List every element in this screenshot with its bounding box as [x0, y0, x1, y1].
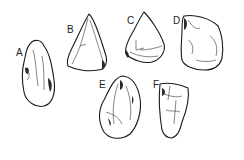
label-b: B [67, 24, 74, 35]
stone-tools-figure: A B C D E F [0, 0, 244, 160]
artifact-f: F [153, 79, 189, 138]
artifact-b: B [67, 14, 107, 71]
label-a: A [16, 47, 23, 58]
artifact-a: A [16, 40, 55, 106]
label-d: D [173, 15, 180, 26]
label-e: E [99, 79, 106, 90]
label-c: C [127, 15, 134, 26]
artifact-d: D [173, 15, 223, 70]
artifact-e: E [99, 76, 141, 138]
label-f: F [153, 79, 159, 90]
artifact-c: C [125, 12, 164, 63]
